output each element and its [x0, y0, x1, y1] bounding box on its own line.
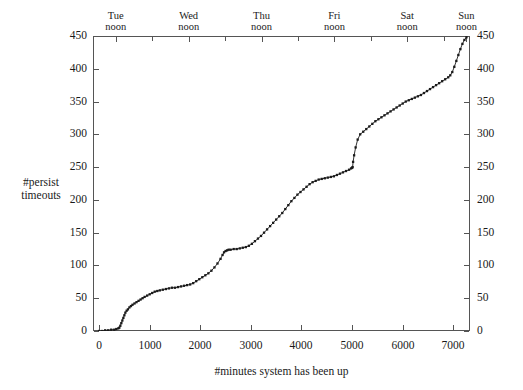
- data-point: [251, 243, 253, 245]
- data-point: [180, 285, 182, 287]
- y-axis-tick-label-left: 0: [47, 325, 87, 337]
- data-point: [110, 329, 112, 331]
- data-point: [392, 108, 394, 110]
- data-point: [143, 296, 145, 298]
- data-point: [104, 329, 106, 331]
- data-point: [195, 280, 197, 282]
- data-point: [159, 289, 161, 291]
- data-point: [459, 48, 461, 50]
- data-point: [371, 123, 373, 125]
- data-point: [305, 186, 307, 188]
- data-point: [275, 218, 277, 220]
- data-point: [227, 249, 229, 251]
- data-point: [213, 266, 215, 268]
- top-clipped-artifact: [0, 0, 523, 7]
- data-point: [342, 171, 344, 173]
- data-point: [118, 327, 120, 329]
- day-label-name: Fri: [304, 11, 364, 22]
- data-point: [359, 133, 361, 135]
- data-point: [324, 177, 326, 179]
- data-point: [318, 178, 320, 180]
- x-axis-tick-label: 3000: [223, 340, 279, 352]
- data-point: [386, 112, 388, 114]
- data-point: [239, 247, 241, 249]
- y-axis-tick-label-right: 150: [477, 227, 517, 239]
- data-point: [174, 287, 176, 289]
- data-point: [365, 128, 367, 130]
- day-label-name: Sun: [436, 11, 496, 22]
- data-point: [457, 54, 459, 56]
- data-point: [426, 90, 428, 92]
- data-point: [124, 311, 126, 313]
- data-point: [210, 270, 212, 272]
- data-point: [395, 106, 397, 108]
- data-point: [131, 304, 133, 306]
- data-point: [204, 274, 206, 276]
- data-point: [444, 78, 446, 80]
- data-point: [113, 329, 115, 331]
- data-point: [290, 200, 292, 202]
- y-axis-tick-label-right: 0: [477, 325, 517, 337]
- day-label-name: Wed: [159, 11, 219, 22]
- day-label-time: noon: [304, 22, 364, 33]
- data-point: [198, 278, 200, 280]
- data-point: [362, 131, 364, 133]
- y-axis-tick-label-right: 350: [477, 96, 517, 108]
- data-point: [229, 249, 231, 251]
- data-point: [368, 125, 370, 127]
- y-axis-tick-label-left: 150: [47, 227, 87, 239]
- data-point: [380, 116, 382, 118]
- data-point: [127, 308, 129, 310]
- day-label-time: noon: [377, 22, 437, 33]
- data-point: [451, 71, 453, 73]
- data-point: [465, 36, 467, 38]
- data-point: [137, 300, 139, 302]
- data-point: [339, 173, 341, 175]
- day-label-name: Thu: [232, 11, 292, 22]
- top-axis-day-label: Frinoon: [304, 11, 364, 32]
- x-axis-tick-label: 2000: [172, 340, 228, 352]
- data-point: [269, 225, 271, 227]
- y-axis-tick-label-left: 450: [47, 30, 87, 42]
- day-label-time: noon: [232, 22, 292, 33]
- data-point: [302, 188, 304, 190]
- data-point: [192, 282, 194, 284]
- data-point: [432, 86, 434, 88]
- data-point: [321, 178, 323, 180]
- y-axis-tick-label-right: 100: [477, 259, 517, 271]
- data-point: [352, 161, 354, 163]
- data-point: [154, 291, 156, 293]
- data-point: [183, 285, 185, 287]
- data-point: [168, 287, 170, 289]
- top-axis-day-label: Tuenoon: [86, 11, 146, 32]
- top-axis-day-label: Sunnoon: [436, 11, 496, 32]
- data-point: [248, 245, 250, 247]
- data-point: [353, 154, 355, 156]
- y-axis-tick-label-left: 300: [47, 128, 87, 140]
- data-point: [139, 298, 141, 300]
- data-point: [311, 181, 313, 183]
- data-point: [447, 76, 449, 78]
- y-axis-tick-label-right: 50: [477, 292, 517, 304]
- data-point: [254, 240, 256, 242]
- data-point: [219, 258, 221, 260]
- y-axis-tick-label-right: 300: [477, 128, 517, 140]
- series-markers: [98, 36, 468, 331]
- x-axis-tick-label: 6000: [375, 340, 431, 352]
- data-point: [438, 82, 440, 84]
- day-label-name: Tue: [86, 11, 146, 22]
- data-point: [357, 138, 359, 140]
- data-point: [345, 170, 347, 172]
- data-point: [260, 235, 262, 237]
- data-point: [122, 317, 124, 319]
- data-point: [333, 175, 335, 177]
- data-point: [351, 166, 353, 168]
- y-axis-tick-label-right: 400: [477, 63, 517, 75]
- series-line: [99, 37, 466, 331]
- data-point: [236, 248, 238, 250]
- data-point: [135, 301, 137, 303]
- data-point: [133, 302, 135, 304]
- data-point: [201, 276, 203, 278]
- data-point: [242, 247, 244, 249]
- data-point: [149, 293, 151, 295]
